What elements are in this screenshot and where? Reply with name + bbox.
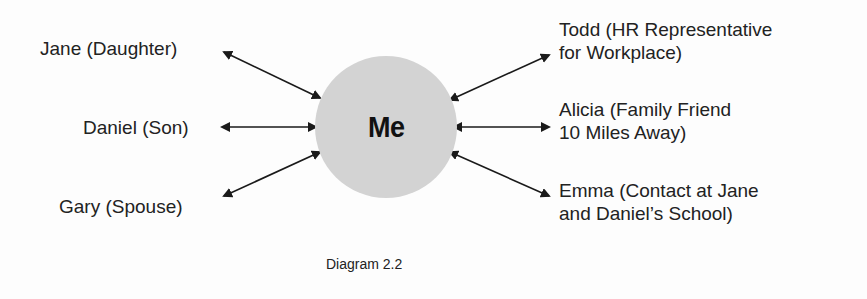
node-emma-line2: and Daniel’s School) (559, 202, 759, 225)
node-daniel: Daniel (Son) (83, 116, 189, 139)
arrow-gary (224, 152, 320, 196)
node-todd: Todd (HR Representative for Workplace) (559, 18, 772, 64)
node-alicia-line1: Alicia (Family Friend (559, 98, 731, 121)
relationship-diagram: Me Jane (Daughter) Daniel (Son) Gary (Sp… (0, 0, 867, 299)
node-todd-line2: for Workplace) (559, 41, 772, 64)
node-todd-line1: Todd (HR Representative (559, 18, 772, 41)
center-node-me: Me (315, 56, 457, 198)
node-emma: Emma (Contact at Jane and Daniel’s Schoo… (559, 179, 759, 225)
arrow-todd (450, 55, 549, 100)
node-jane: Jane (Daughter) (40, 37, 177, 60)
arrow-jane (224, 52, 320, 98)
node-emma-line1: Emma (Contact at Jane (559, 179, 759, 202)
node-alicia: Alicia (Family Friend 10 Miles Away) (559, 98, 731, 144)
center-node-label: Me (368, 110, 405, 144)
diagram-caption: Diagram 2.2 (326, 256, 402, 272)
arrow-emma (450, 152, 549, 196)
node-gary: Gary (Spouse) (59, 195, 183, 218)
node-alicia-line2: 10 Miles Away) (559, 121, 731, 144)
